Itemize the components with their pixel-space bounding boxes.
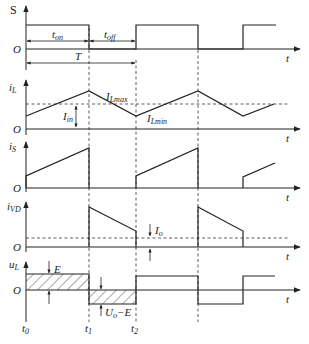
time-label-t0: t0 <box>22 322 29 336</box>
origin-label: O <box>13 123 21 135</box>
t-on-label: ton <box>52 28 63 42</box>
waveform-diagram: S O t ton toff T iL O t ILmax ILmin Iin … <box>0 0 309 344</box>
y-label: S <box>10 3 17 17</box>
e-label: E <box>53 263 61 275</box>
time-label-t2: t2 <box>131 322 138 336</box>
x-label: t <box>286 52 290 64</box>
switch-current-pulse-3 <box>243 163 275 188</box>
panel-switch-current: iS O t <box>9 140 300 203</box>
guide-lines <box>89 28 198 322</box>
i-in-label: Iin <box>62 110 73 124</box>
period-label: T <box>75 50 82 62</box>
x-label: t <box>286 250 290 262</box>
y-label: iVD <box>7 200 21 214</box>
origin-label: O <box>13 284 21 296</box>
panel-inductor-voltage: uL O t E Uo−E t0 t1 t2 <box>9 258 300 336</box>
diode-current-pulse-1 <box>89 207 136 247</box>
volt-second-area-positive <box>26 274 89 290</box>
switch-current-pulse-2 <box>136 148 198 188</box>
origin-label: O <box>13 43 21 55</box>
i-o-label: Io <box>154 224 163 238</box>
y-label: iS <box>9 140 16 154</box>
x-label: t <box>286 191 290 203</box>
y-label: iL <box>9 81 17 95</box>
switch-current-pulse-1 <box>26 148 89 188</box>
volt-second-area-negative <box>89 290 136 304</box>
i-lmin-label: ILmin <box>146 112 167 126</box>
y-label: uL <box>9 258 20 272</box>
panel-diode-current: iVD O t Io <box>7 200 300 262</box>
x-label: t <box>286 293 290 305</box>
panel-switch-signal: S O t ton toff T <box>10 3 300 70</box>
origin-label: O <box>13 182 21 194</box>
t-off-label: toff <box>104 28 117 42</box>
i-lmax-label: ILmax <box>105 90 128 104</box>
origin-label: O <box>13 241 21 253</box>
panel-inductor-current: iL O t ILmax ILmin Iin <box>9 80 300 144</box>
uo-minus-e-label: Uo−E <box>105 306 131 320</box>
x-label: t <box>286 132 290 144</box>
switch-waveform <box>26 25 276 49</box>
time-label-t1: t1 <box>85 322 92 336</box>
diode-current-pulse-2 <box>198 207 243 247</box>
